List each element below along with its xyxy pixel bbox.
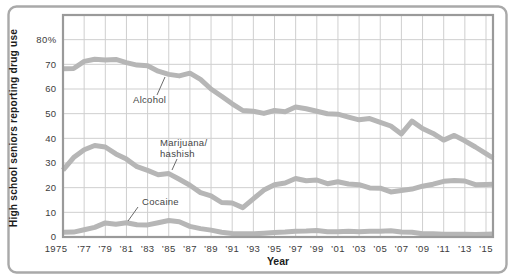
marijuana-label-text: hashish	[160, 148, 195, 159]
drug-use-line-chart: 01020304050607080%1975’77’79’81’83’85’87…	[0, 0, 512, 280]
x-tick-2015: ’15	[479, 243, 493, 254]
x-axis-title: Year	[267, 255, 289, 267]
y-tick-70: 70	[45, 59, 56, 70]
x-tick-2003: ’03	[352, 243, 366, 254]
x-tick-2009: ’09	[416, 243, 430, 254]
x-tick-1987: ’87	[183, 243, 197, 254]
y-tick-50: 50	[45, 108, 56, 119]
x-tick-1997: ’97	[289, 243, 303, 254]
x-tick-1989: ’89	[204, 243, 218, 254]
y-tick-0: 0	[51, 231, 57, 242]
x-tick-1999: ’99	[310, 243, 324, 254]
textbook-figure: 01020304050607080%1975’77’79’81’83’85’87…	[0, 0, 512, 280]
x-tick-1993: ’93	[246, 243, 260, 254]
x-tick-1977: ’77	[77, 243, 91, 254]
y-axis-title: High school seniors reporting drug use	[8, 29, 19, 227]
x-tick-1975: 1975	[45, 243, 68, 254]
x-tick-2001: ’01	[331, 243, 345, 254]
x-tick-2007: ’07	[394, 243, 408, 254]
y-tick-80: 80%	[36, 34, 56, 45]
x-tick-1995: ’95	[268, 243, 282, 254]
alcohol-label-text: Alcohol	[133, 94, 166, 105]
x-tick-1981: ’81	[120, 243, 134, 254]
x-tick-1983: ’83	[141, 243, 155, 254]
marijuana-label-text: Marijuana/	[160, 137, 207, 148]
x-tick-1979: ’79	[98, 243, 112, 254]
x-tick-1985: ’85	[162, 243, 176, 254]
x-tick-1991: ’91	[225, 243, 239, 254]
plot-area	[63, 15, 493, 237]
y-tick-10: 10	[45, 207, 56, 218]
x-tick-2013: ’13	[458, 243, 472, 254]
x-tick-2011: ’11	[437, 243, 450, 254]
y-tick-30: 30	[45, 157, 56, 168]
y-tick-20: 20	[45, 182, 56, 193]
cocaine-label-text: Cocaine	[142, 196, 179, 207]
y-tick-40: 40	[45, 133, 56, 144]
y-tick-60: 60	[45, 83, 56, 94]
x-tick-2005: ’05	[373, 243, 387, 254]
